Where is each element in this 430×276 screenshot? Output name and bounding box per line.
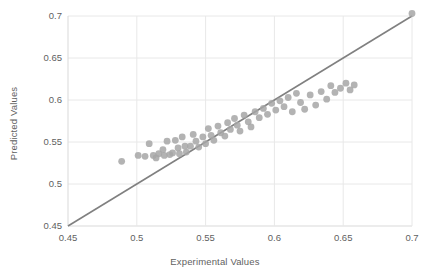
scatter-point	[312, 102, 319, 109]
x-tick-label: 0.5	[117, 232, 157, 243]
scatter-point	[318, 88, 325, 95]
y-tick-label: 0.55	[32, 136, 62, 147]
scatter-point	[176, 150, 183, 157]
x-tick-label: 0.45	[48, 232, 88, 243]
scatter-point	[215, 123, 222, 130]
scatter-point	[169, 150, 176, 157]
scatter-point	[409, 10, 416, 17]
scatter-point	[224, 119, 231, 126]
scatter-point	[146, 140, 153, 147]
scatter-point	[190, 131, 197, 138]
y-tick-label: 0.5	[32, 178, 62, 189]
scatter-point	[343, 80, 350, 87]
scatter-point	[187, 143, 194, 150]
scatter-point	[293, 90, 300, 97]
scatter-point	[241, 112, 248, 119]
scatter-point	[135, 152, 142, 159]
scatter-point	[142, 153, 149, 160]
scatter-point	[231, 115, 238, 122]
scatter-point	[195, 144, 202, 151]
scatter-point	[205, 125, 212, 132]
x-axis-title: Experimental Values	[0, 256, 430, 267]
scatter-point	[160, 146, 167, 153]
x-tick-label: 0.65	[323, 232, 363, 243]
scatter-point	[221, 133, 228, 140]
scatter-point	[277, 97, 284, 104]
scatter-point	[252, 108, 259, 115]
scatter-point	[285, 94, 292, 101]
scatter-point	[264, 111, 271, 118]
scatter-point	[256, 114, 263, 121]
scatter-point	[301, 106, 308, 113]
scatter-point	[210, 137, 217, 144]
x-tick-label: 0.6	[254, 232, 294, 243]
scatter-point	[227, 126, 234, 133]
scatter-point	[199, 134, 206, 141]
y-tick-label: 0.65	[32, 52, 62, 63]
scatter-point	[183, 149, 190, 156]
scatter-point	[332, 89, 339, 96]
scatter-point	[260, 105, 267, 112]
scatter-point	[307, 92, 314, 99]
scatter-point	[289, 108, 296, 115]
y-tick-label: 0.7	[32, 10, 62, 21]
scatter-point	[248, 123, 255, 130]
y-tick-label: 0.6	[32, 94, 62, 105]
scatter-point	[337, 85, 344, 92]
x-tick-label: 0.7	[392, 232, 430, 243]
scatter-point	[193, 138, 200, 145]
x-tick-label: 0.55	[186, 232, 226, 243]
scatter-point	[281, 103, 288, 110]
scatter-point	[164, 138, 171, 145]
scatter-point	[268, 100, 275, 107]
scatter-chart: Predicted Values Experimental Values 0.4…	[0, 0, 430, 276]
scatter-point	[179, 134, 186, 141]
scatter-point	[297, 99, 304, 106]
scatter-point	[351, 81, 358, 88]
scatter-point	[237, 128, 244, 135]
scatter-point	[175, 144, 182, 151]
scatter-point	[327, 82, 334, 89]
scatter-point	[118, 158, 125, 165]
parity-line	[68, 16, 412, 226]
y-axis-title: Predicted Values	[8, 78, 19, 170]
scatter-point	[172, 137, 179, 144]
scatter-point	[202, 140, 209, 147]
scatter-point	[323, 96, 330, 103]
y-tick-label: 0.45	[32, 220, 62, 231]
scatter-point	[272, 107, 279, 114]
scatter-point	[234, 122, 241, 129]
